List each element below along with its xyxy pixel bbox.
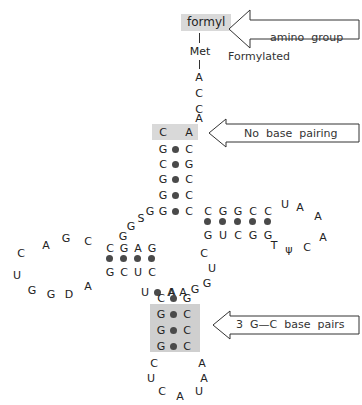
callout-formylated-amino-group: Formylated amino group (228, 8, 360, 50)
t-pair-dot-4 (249, 218, 256, 225)
t-pair-bottom-2: U (217, 230, 229, 241)
acceptor-pair-dot-3 (172, 176, 179, 183)
anticodon-loop-right-a2: A (198, 373, 210, 384)
d-pair-bottom-2: C (118, 267, 130, 278)
callout-no-base-pairing-text: No base pairing (244, 127, 337, 141)
anticodon-loop-left-a: A (174, 391, 186, 402)
t-loop-c: C (301, 242, 313, 253)
acceptor-ss-a2: A (193, 113, 205, 124)
anticodon-pair-left-4: G (155, 325, 167, 336)
t-pair-dot-5 (264, 218, 271, 225)
t-loop-t: T (268, 240, 280, 251)
d-pair-bottom-4: C (146, 267, 158, 278)
d-loop-d: D (63, 289, 75, 300)
acceptor-pair-dot-2 (172, 161, 179, 168)
d-pair-top-4: G (146, 243, 158, 254)
callout-formylated-line2: amino group (270, 31, 343, 45)
callout-three-gc-text: 3 G—C base pairs (236, 318, 344, 332)
trna-diagram: formyl Met A C C A C A G C C G G C G C G… (0, 0, 362, 405)
d-pair-top-1: C (104, 243, 116, 254)
acceptor-unpaired-left: C (157, 127, 169, 138)
d-loop-a2: A (82, 281, 94, 292)
t-pair-bottom-1: G (202, 230, 214, 241)
t-pair-top-1: C (202, 206, 214, 217)
d-pair-dot-3 (134, 255, 141, 262)
t-pair-top-5: C (262, 206, 274, 217)
t-loop-psi: ψ (283, 244, 295, 255)
anticodon-loop-right-u: U (193, 386, 205, 397)
anticodon-loop-right-a1: A (196, 358, 208, 369)
t-loop-a2: A (312, 211, 324, 222)
t-pair-dot-2 (219, 218, 226, 225)
t-pair-top-4: C (247, 206, 259, 217)
d-loop-g1: G (60, 233, 72, 244)
t-pair-bottom-3: C (232, 230, 244, 241)
acceptor-pair-dot-1 (172, 146, 179, 153)
anticodon-pair-right-3: C (181, 309, 193, 320)
acceptor-pair-left-4: G (157, 190, 169, 201)
acceptor-pair-right-1: C (183, 144, 195, 155)
acceptor-pair-right-4: C (183, 190, 195, 201)
acceptor-pair-right-3: C (183, 174, 195, 185)
d-loop-c1: C (82, 236, 94, 247)
t-pair-top-2: G (217, 206, 229, 217)
acceptor-ss-c1: C (193, 88, 205, 99)
acceptor-pair-right-2: G (183, 159, 195, 170)
d-pair-bottom-1: G (104, 267, 116, 278)
d-pair-bottom-3: U (132, 267, 144, 278)
acceptor-pair-dot-4 (172, 192, 179, 199)
acceptor-pair-left-5: G (157, 206, 169, 217)
acceptor-ss-a1: A (193, 72, 205, 83)
anticodon-pair-dot-2 (170, 295, 177, 302)
anticodon-pair-left-1: U (139, 287, 151, 298)
formyl-met-link (199, 33, 200, 43)
anticodon-pair-dot-5 (170, 343, 177, 350)
callout-three-gc-base-pairs: 3 G—C base pairs (212, 310, 360, 340)
anticodon-pair-right-2: G (181, 293, 193, 304)
variable-right-g1: G (201, 278, 213, 289)
d-loop-a1: A (40, 240, 52, 251)
acceptor-pair-left-3: G (157, 174, 169, 185)
anticodon-loop-left-c1: C (148, 358, 160, 369)
anticodon-pair-left-3: G (155, 309, 167, 320)
acceptor-pair-right-5: C (183, 206, 195, 217)
met-a-link (199, 60, 200, 69)
d-pair-dot-4 (148, 255, 155, 262)
acceptor-pair-dot-5 (172, 208, 179, 215)
acceptor-pair-left-1: G (157, 144, 169, 155)
anticodon-pair-right-4: C (181, 325, 193, 336)
callout-formylated-line1: Formylated (228, 50, 290, 64)
variable-right-c: C (198, 248, 210, 259)
anticodon-pair-left-2: C (155, 293, 167, 304)
d-loop-u1: U (11, 270, 23, 281)
anticodon-pair-right-5: C (181, 341, 193, 352)
met-label: Met (187, 46, 213, 57)
t-pair-top-3: G (232, 206, 244, 217)
acceptor-unpaired-right: A (183, 127, 195, 138)
d-pair-dot-1 (106, 255, 113, 262)
t-loop-u: U (279, 199, 291, 210)
acceptor-pair-left-2: C (157, 159, 169, 170)
d-pair-top-3: A (132, 243, 144, 254)
t-loop-a3: A (317, 232, 329, 243)
anticodon-loop-left-u: U (145, 373, 157, 384)
d-loop-g2: G (26, 285, 38, 296)
t-pair-dot-1 (204, 218, 211, 225)
d-loop-c2: C (15, 248, 27, 259)
anticodon-pair-left-5: G (155, 341, 167, 352)
anticodon-pair-dot-4 (170, 327, 177, 334)
d-pair-top-2: G (118, 243, 130, 254)
t-pair-dot-3 (234, 218, 241, 225)
t-pair-bottom-4: G (247, 230, 259, 241)
variable-right-u: U (206, 263, 218, 274)
callout-no-base-pairing: No base pairing (208, 118, 360, 148)
anticodon-loop-left-c2: C (156, 386, 168, 397)
variable-left-g3: G (117, 231, 129, 242)
d-loop-g3: G (45, 289, 57, 300)
t-loop-a1: A (294, 202, 306, 213)
formyl-label: formyl (181, 14, 231, 31)
d-pair-dot-2 (120, 255, 127, 262)
anticodon-pair-dot-3 (170, 311, 177, 318)
